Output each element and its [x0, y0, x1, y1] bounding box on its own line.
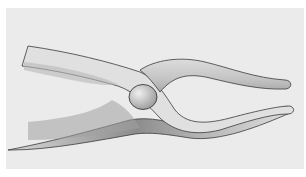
- pivot-rivet: [129, 85, 157, 110]
- tongs-illustration: [0, 0, 306, 177]
- illustration-canvas: [0, 0, 306, 177]
- upper-jaw: [140, 59, 291, 92]
